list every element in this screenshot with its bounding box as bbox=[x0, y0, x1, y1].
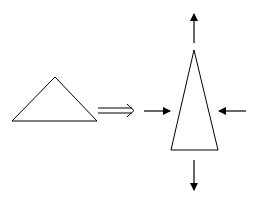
deformed-triangle bbox=[171, 50, 218, 150]
diagram-canvas bbox=[0, 0, 258, 200]
implies-arrow bbox=[98, 104, 134, 117]
initial-triangle bbox=[12, 77, 97, 121]
